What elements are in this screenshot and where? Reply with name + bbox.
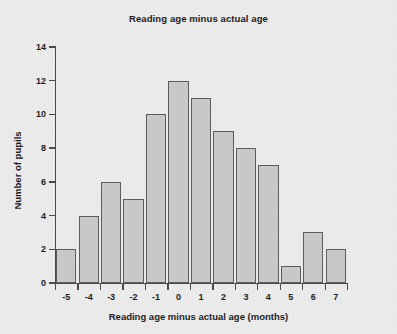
bar [213,131,233,283]
y-axis-tick-label: 0 [4,278,46,288]
y-axis-tick [49,249,56,250]
x-axis-tick [347,283,348,290]
x-axis-tick [280,283,281,290]
chart-title: Reading age minus actual age [0,13,397,24]
y-axis-tick-label: 14 [4,42,46,52]
x-axis-tick [77,283,78,290]
x-axis-tick-label: 1 [189,292,213,302]
y-axis-tick [49,80,56,81]
x-axis-tick [100,283,101,290]
x-axis-tick [212,283,213,290]
y-axis-tick-label: 12 [4,76,46,86]
y-axis-tick [49,114,56,115]
bar [236,148,256,283]
x-axis-tick [145,283,146,290]
x-axis-tick-label: -1 [144,292,168,302]
y-axis-tick [49,46,56,47]
y-axis-tick-label: 2 [4,244,46,254]
y-axis-tick-label: 6 [4,177,46,187]
bar [146,114,166,283]
x-axis-tick-label: 5 [279,292,303,302]
bar [123,199,143,283]
x-axis-tick [122,283,123,290]
x-axis-tick [302,283,303,290]
bar [56,249,76,283]
x-axis-tick-label: 4 [256,292,280,302]
x-axis-tick-label: -2 [122,292,146,302]
bar [79,216,99,283]
y-axis-tick-label: 4 [4,211,46,221]
x-axis-tick [55,283,56,290]
x-axis-tick [167,283,168,290]
x-axis-title: Reading age minus actual age (months) [0,311,397,322]
bar [326,249,346,283]
bar [168,81,188,283]
x-axis-tick [325,283,326,290]
bar [191,98,211,283]
y-axis-tick [49,181,56,182]
x-axis-tick [257,283,258,290]
x-axis-tick-label: 7 [324,292,348,302]
x-axis-tick-label: 3 [234,292,258,302]
x-axis-tick-label: 0 [167,292,191,302]
x-axis-tick-label: 2 [211,292,235,302]
x-axis-tick-label: -3 [99,292,123,302]
histogram-chart: Reading age minus actual age Number of p… [0,0,397,334]
x-axis-tick-label: 6 [301,292,325,302]
y-axis-tick [49,215,56,216]
y-axis-tick-labels: 02468101214 [0,0,46,334]
bar [101,182,121,283]
y-axis-tick-label: 8 [4,143,46,153]
y-axis-tick [49,147,56,148]
bar [258,165,278,283]
bar [303,232,323,283]
bar [281,266,301,283]
x-axis-tick [190,283,191,290]
plot-area [55,47,347,283]
y-axis-tick-label: 10 [4,109,46,119]
x-axis-tick [235,283,236,290]
x-axis-tick-label: -4 [77,292,101,302]
x-axis-tick-label: -5 [54,292,78,302]
